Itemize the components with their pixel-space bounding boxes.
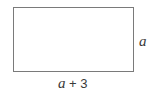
bottom-variable: a: [58, 75, 66, 91]
bottom-length-label: a + 3: [58, 75, 88, 92]
bottom-expression: + 3: [66, 76, 88, 91]
side-length-label: a: [139, 33, 147, 50]
rectangle-shape: [13, 7, 134, 72]
